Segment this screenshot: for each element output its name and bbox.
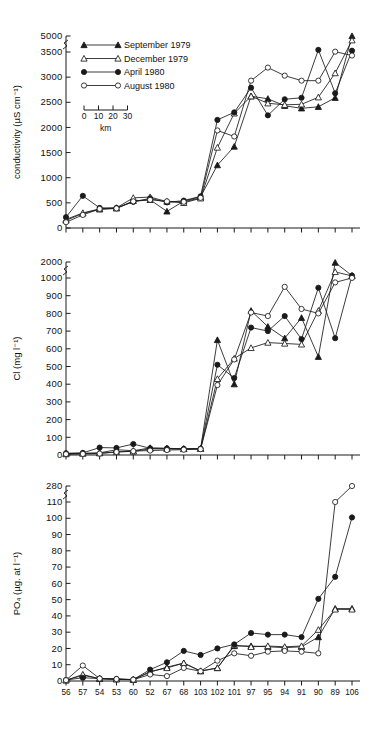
data-point-open-circle [232,357,237,362]
y-tick-label: 2000 [41,122,63,133]
data-point-filled-circle [316,596,321,601]
scale-bar-tick-label: 30 [123,111,133,121]
data-point-filled-triangle [332,260,338,266]
scale-bar-unit-label: km [100,123,111,133]
data-point-filled-circle [265,113,270,118]
data-point-filled-circle [232,375,237,380]
y-axis-title: conductivity (µS cm⁻¹) [11,85,22,179]
x-tick-label: 90 [314,688,324,697]
data-point-filled-triangle [298,315,304,321]
legend-item-april-1980[interactable]: April 1980 [81,67,164,77]
scale-bar: 0102030km [82,106,133,134]
legend-item-september-1979[interactable]: September 1979 [81,40,191,50]
data-point-filled-circle [333,336,338,341]
legend-item-august-1980[interactable]: August 1980 [81,81,174,91]
data-point-open-circle [131,677,136,682]
data-point-filled-circle [316,285,321,290]
data-point-open-circle [316,651,321,656]
x-tick-label: 101 [227,688,241,697]
y-tick-label: 500 [46,361,62,372]
data-point-filled-triangle [231,381,237,387]
data-point-open-circle [131,449,136,454]
x-tick-label: 52 [146,688,156,697]
data-point-filled-triangle [315,104,321,110]
y-tick-label: 110 [47,496,63,507]
y-tick-label: 900 [46,290,62,301]
data-point-open-circle [148,448,153,453]
data-point-filled-triangle [231,143,237,149]
data-point-open-circle [81,83,86,88]
chart-panel-3: 0102030405060708090100110280PO₄ (µg. at … [11,480,360,686]
data-point-open-circle [349,483,354,488]
series-line [66,50,352,217]
y-tick-label: 0 [57,222,62,233]
series-september-1979 [63,605,355,682]
data-point-open-circle [164,199,169,204]
data-point-open-circle [164,674,169,679]
series-line [66,272,352,454]
data-point-filled-circle [215,362,220,367]
data-point-filled-circle [148,667,153,672]
data-point-open-circle [80,212,85,217]
data-point-open-circle [282,73,287,78]
data-point-open-circle [97,206,102,211]
data-point-filled-circle [232,642,237,647]
y-tick-label: 1000 [41,272,63,283]
data-point-open-circle [349,275,354,280]
x-tick-label: 106 [345,688,359,697]
data-point-open-triangle [248,93,254,99]
data-point-open-triangle [332,70,338,76]
y-tick-label: 800 [46,308,62,319]
data-point-open-circle [316,78,321,83]
data-point-filled-circle [232,110,237,115]
x-tick-label: 67 [162,688,172,697]
y-tick-label: 700 [46,325,62,336]
data-point-open-circle [114,676,119,681]
data-point-filled-circle [198,652,203,657]
data-point-filled-circle [80,193,85,198]
y-axis-title: PO₄ (µg. at l⁻¹) [11,552,22,615]
data-point-open-circle [333,280,338,285]
data-point-open-circle [164,447,169,452]
data-point-filled-triangle [164,208,170,214]
data-point-filled-circle [81,69,86,74]
data-point-open-circle [299,306,304,311]
data-point-filled-circle [299,634,304,639]
data-point-filled-circle [282,632,287,637]
y-tick-label: 40 [52,610,63,621]
data-point-filled-circle [131,441,136,446]
series-april-1980 [63,515,354,683]
data-point-open-circle [265,65,270,70]
y-tick-label: 30 [52,626,63,637]
series-september-1979 [63,260,355,457]
data-point-filled-circle [80,675,85,680]
data-point-open-triangle [181,660,187,666]
legend-item-december-1979[interactable]: December 1979 [81,54,188,64]
data-point-filled-circle [282,97,287,102]
data-point-filled-circle [215,117,220,122]
y-tick-label: 20 [52,643,63,654]
y-tick-label: 5000 [41,30,63,41]
scale-bar-tick-label: 0 [82,111,87,121]
x-tick-label: 89 [331,688,341,697]
legend: September 1979December 1979April 1980Aug… [81,40,191,90]
y-tick-label: 90 [52,529,63,540]
data-point-open-circle [248,310,253,315]
data-point-open-circle [215,658,220,663]
y-tick-label: 100 [46,432,62,443]
data-point-filled-circle [181,648,186,653]
y-tick-label: 3500 [41,46,63,57]
data-point-open-circle [215,382,220,387]
data-point-filled-circle [97,445,102,450]
data-point-filled-circle [333,574,338,579]
series-december-1979 [63,269,355,457]
y-axis-break-symbol [63,266,68,275]
y-tick-label: 3000 [41,71,63,82]
y-tick-label: 0 [57,675,62,686]
data-point-open-circle [248,653,253,658]
y-tick-label: 50 [52,594,63,605]
x-tick-label: 57 [78,688,88,697]
data-point-open-circle [148,197,153,202]
data-point-open-circle [114,206,119,211]
data-point-open-circle [131,199,136,204]
